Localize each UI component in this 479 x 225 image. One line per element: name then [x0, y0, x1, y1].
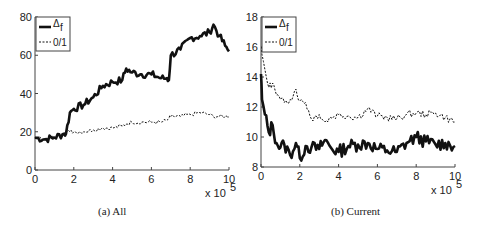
chart-current: 024681081012141618x 105Δf0/1: [240, 0, 479, 225]
x-tick-label: 6: [148, 173, 154, 185]
y-tick-label: 10: [246, 131, 258, 143]
y-tick-label: 8: [252, 161, 258, 173]
x-tick-label: 0: [32, 173, 38, 185]
y-tick-label: 40: [20, 88, 32, 100]
y-tick-label: 0: [26, 164, 32, 176]
legend-label-subscript: f: [286, 22, 289, 33]
x-tick-label: 0: [258, 170, 264, 182]
panel-current: 024681081012141618x 105Δf0/1 (b) Current: [240, 0, 479, 225]
legend-label-0-1: 0/1: [53, 37, 67, 48]
x-multiplier-label: x 10: [205, 187, 226, 199]
x-multiplier-exponent: 5: [230, 181, 236, 193]
caption-all: (a) All: [98, 205, 126, 217]
caption-current: (b) Current: [331, 205, 380, 217]
x-tick-label: 2: [71, 173, 77, 185]
legend-label-delta: Δ: [53, 18, 60, 29]
y-tick-label: 60: [20, 49, 32, 61]
x-multiplier-label: x 10: [431, 184, 452, 196]
x-multiplier-exponent: 5: [456, 178, 462, 190]
chart-all: 0246810020406080x 105Δf0/1: [0, 0, 240, 225]
x-tick-label: 8: [413, 170, 419, 182]
y-tick-label: 16: [246, 41, 258, 53]
x-tick-label: 4: [110, 173, 116, 185]
legend-label-delta: Δ: [279, 18, 286, 29]
y-tick-label: 14: [246, 71, 258, 83]
series-line-0-1: [261, 47, 455, 122]
y-tick-label: 20: [20, 126, 32, 138]
legend-label-0-1: 0/1: [279, 37, 293, 48]
series-line-0-1: [35, 112, 229, 142]
x-tick-label: 6: [374, 170, 380, 182]
x-tick-label: 2: [297, 170, 303, 182]
y-tick-label: 12: [246, 101, 258, 113]
x-tick-label: 8: [187, 173, 193, 185]
y-tick-label: 18: [246, 11, 258, 23]
panel-all: 0246810020406080x 105Δf0/1 (a) All: [0, 0, 240, 225]
legend-label-subscript: f: [60, 22, 63, 33]
y-tick-label: 80: [20, 11, 32, 23]
x-tick-label: 4: [336, 170, 342, 182]
